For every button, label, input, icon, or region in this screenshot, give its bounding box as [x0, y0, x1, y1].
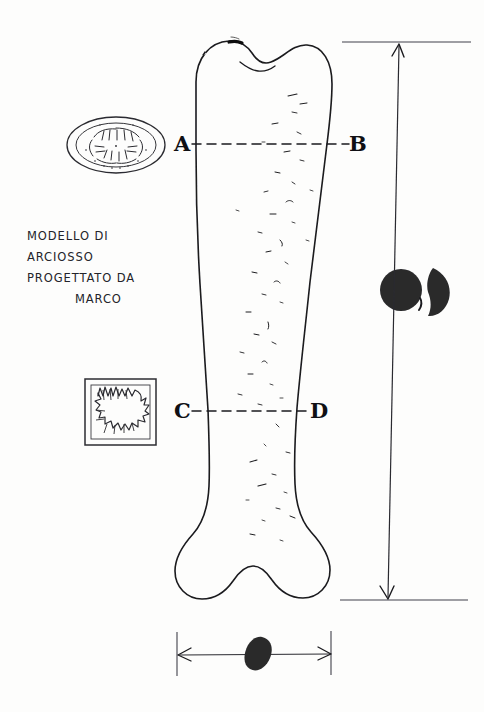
sketch-canvas — [0, 0, 484, 712]
annotation-line-2: ARCIOSSO — [27, 247, 177, 268]
bone-shaft-speckles — [236, 94, 313, 541]
annotation-line-4: MARCO — [27, 289, 177, 310]
section-label-b: B — [349, 133, 367, 154]
section-label-a: A — [174, 133, 190, 154]
solid-circle-detail — [380, 269, 422, 311]
bone-outline — [175, 41, 332, 599]
section-label-d: D — [310, 400, 328, 421]
oval-cross-section-detail — [67, 117, 165, 173]
crescent-detail — [427, 268, 450, 316]
framed-jagged-detail — [85, 379, 156, 445]
section-label-c: C — [174, 400, 191, 421]
leaf-blob-detail — [244, 637, 271, 671]
annotation-note: MODELLO DI ARCIOSSO PROGETTATO DA MARCO — [27, 226, 177, 310]
annotation-line-1: MODELLO DI — [27, 226, 177, 247]
height-dimension — [340, 42, 471, 600]
annotation-line-3: PROGETTATO DA — [27, 268, 177, 289]
